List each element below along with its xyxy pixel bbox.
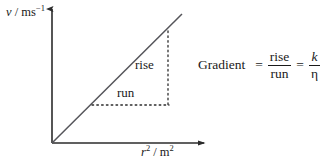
equals-sign-2: = [296, 58, 304, 72]
k-over-eta-fraction: k η [309, 50, 320, 80]
y-axis-unit-exponent: −1 [36, 3, 45, 13]
gradient-equation: Gradient = rise run = k η [198, 50, 320, 80]
x-axis-unit-base: m [160, 145, 170, 159]
data-line [52, 14, 182, 143]
gradient-word: Gradient [198, 58, 245, 72]
y-axis-unit-base: ms [21, 5, 36, 19]
fraction-denominator-run: run [269, 66, 291, 81]
x-axis-label: r2 / m2 [141, 146, 174, 159]
gradient-graph-figure: v / ms−1 r2 / m2 rise run Gradient = ris… [0, 0, 320, 167]
run-annotation-label: run [117, 86, 134, 99]
rise-over-run-fraction: rise run [268, 50, 292, 80]
equals-sign-1: = [255, 58, 263, 72]
graph-canvas [0, 0, 320, 167]
rise-annotation-label: rise [135, 58, 154, 71]
x-axis-separator: / [150, 145, 160, 159]
y-axis-label: v / ms−1 [6, 6, 45, 19]
fraction-numerator-k: k [310, 50, 320, 65]
fraction-numerator-rise: rise [268, 50, 292, 65]
fraction-denominator-eta: η [309, 66, 320, 81]
x-axis-unit-exponent: 2 [170, 143, 174, 153]
y-axis-separator: / [12, 5, 22, 19]
